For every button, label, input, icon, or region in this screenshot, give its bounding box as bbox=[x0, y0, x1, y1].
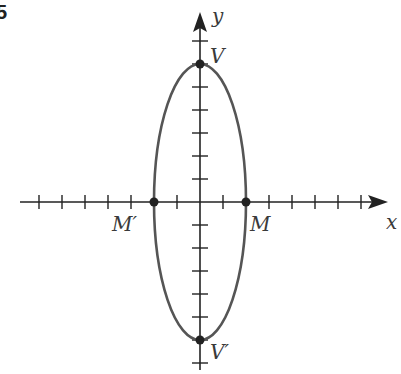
label-M: M bbox=[250, 214, 270, 234]
point-V bbox=[196, 60, 205, 69]
figure-number: 5 bbox=[0, 2, 7, 22]
label-V: V bbox=[210, 46, 224, 66]
point-V-prime bbox=[196, 336, 205, 345]
label-V-prime: V′ bbox=[210, 342, 229, 362]
ellipse-diagram: 5 y x V V′ M M′ bbox=[0, 0, 401, 374]
point-M-prime bbox=[150, 198, 159, 207]
x-axis-label: x bbox=[386, 212, 397, 232]
y-axis-label: y bbox=[212, 6, 223, 26]
coordinate-plane bbox=[0, 0, 401, 374]
point-M bbox=[242, 198, 251, 207]
label-M-prime: M′ bbox=[112, 214, 137, 234]
